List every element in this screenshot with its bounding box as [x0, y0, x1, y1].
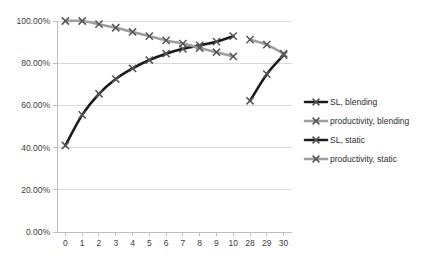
x-tick-label: 5	[147, 238, 152, 248]
y-tick-label: 0.00%	[26, 227, 51, 237]
y-tick-label: 100.00%	[16, 16, 50, 26]
legend-item[interactable]: productivity, static	[305, 154, 398, 164]
legend-label: SL, static	[330, 135, 366, 145]
y-tick-label: 80.00%	[21, 58, 50, 68]
y-tick-label: 20.00%	[21, 185, 50, 195]
x-tick-label: 0	[63, 238, 68, 248]
x-tick-label: 7	[181, 238, 186, 248]
x-tick-label: 3	[113, 238, 118, 248]
chart-figure: 0.00%20.00%40.00%60.00%80.00%100.00% 012…	[0, 0, 430, 263]
legend-label: productivity, static	[330, 154, 398, 164]
x-tick-label: 2	[97, 238, 102, 248]
x-tick-label: 4	[130, 238, 135, 248]
y-tick-label: 40.00%	[21, 143, 50, 153]
x-tick-label: 29	[262, 238, 272, 248]
x-tick-label: 1	[80, 238, 85, 248]
x-tick-label: 8	[197, 238, 202, 248]
x-tick-label: 30	[279, 238, 289, 248]
legend-label: SL, blending	[330, 97, 378, 107]
x-tick-label: 9	[214, 238, 219, 248]
y-tick-label: 60.00%	[21, 100, 50, 110]
x-tick-label: 10	[229, 238, 239, 248]
x-tick-label: 6	[164, 238, 169, 248]
legend-label: productivity, blending	[330, 116, 409, 126]
x-tick-label: 28	[245, 238, 255, 248]
